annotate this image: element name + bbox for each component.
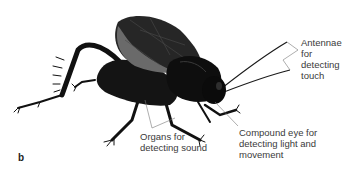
compound-eye-label: Compound eye for detecting light and mov… [239,127,317,160]
organs-for-detecting-sound-label: Organs for detecting sound [140,131,207,153]
panel-letter: b [18,152,24,163]
antennae-icon [222,42,290,92]
cricket-diagram: Antennae for detecting touch Organs for … [0,0,349,174]
head-icon [202,76,226,104]
compound-eye-icon [216,82,222,90]
antennae-label: Antennae for detecting touch [301,37,342,81]
